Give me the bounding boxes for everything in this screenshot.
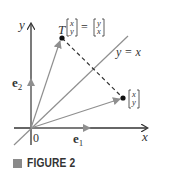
svg-text:T: T <box>58 22 66 37</box>
vector-xy <box>31 99 120 128</box>
origin-label: 0 <box>33 131 39 145</box>
e1-label: e1 <box>73 131 83 148</box>
caption-square-icon <box>13 159 22 168</box>
svg-text:=: = <box>81 20 88 34</box>
y-axis-label: y <box>17 17 25 32</box>
svg-text:x: x <box>96 26 101 36</box>
figure-caption: FIGURE 2 <box>13 156 84 170</box>
point-original <box>120 95 125 100</box>
reflection-dashed-line <box>62 38 123 98</box>
svg-text:y: y <box>131 97 136 107</box>
caption-text: FIGURE 2 <box>27 156 75 170</box>
svg-text:y: y <box>69 26 74 36</box>
transform-label: T x y = y x <box>58 18 104 37</box>
line-label: y = x <box>115 45 141 59</box>
original-vector-label: x y <box>129 89 139 108</box>
reflection-diagram: y x 0 e1 e2 y = x T x y = y x x y <box>0 0 180 177</box>
e2-label: e2 <box>12 75 22 92</box>
x-axis-label: x <box>141 129 148 144</box>
